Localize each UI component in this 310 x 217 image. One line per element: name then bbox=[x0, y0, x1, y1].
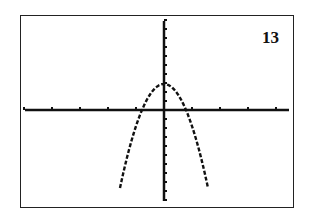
figure-label: 13 bbox=[262, 28, 279, 48]
